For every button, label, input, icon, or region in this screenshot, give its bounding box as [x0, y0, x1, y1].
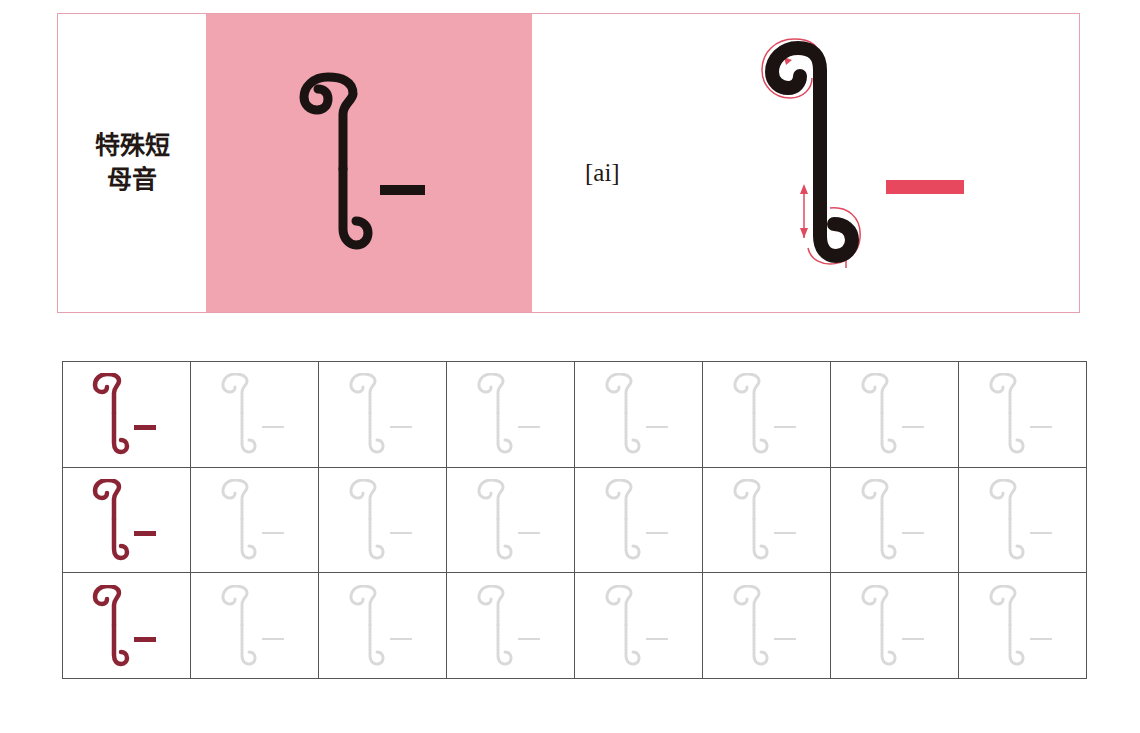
trace-cell[interactable] [447, 467, 575, 573]
sara-ai-trace-icon [348, 585, 418, 667]
sara-ai-trace-icon [732, 585, 802, 667]
sara-ai-trace-icon [732, 373, 802, 455]
trace-cell[interactable] [703, 467, 831, 573]
label-line-2: 母音 [107, 163, 157, 197]
trace-cell[interactable] [831, 467, 959, 573]
vowel-card: 特殊短 母音 [ai] [57, 13, 1080, 313]
sara-ai-trace-icon [988, 373, 1058, 455]
sara-ai-trace-icon [604, 585, 674, 667]
trace-cell[interactable] [575, 362, 703, 468]
sara-ai-trace-icon [988, 585, 1058, 667]
model-cell [63, 467, 191, 573]
trace-cell[interactable] [319, 362, 447, 468]
letter-display-cell [206, 14, 532, 312]
sara-ai-trace-icon [860, 373, 930, 455]
sara-ai-model-icon [92, 585, 162, 667]
sara-ai-trace-icon [988, 479, 1058, 561]
model-cell [63, 573, 191, 679]
sara-ai-trace-icon [476, 373, 546, 455]
trace-cell[interactable] [703, 362, 831, 468]
trace-cell[interactable] [319, 573, 447, 679]
sara-ai-trace-icon [732, 479, 802, 561]
practice-row [63, 362, 1087, 468]
sara-ai-model-icon [92, 373, 162, 455]
sara-ai-trace-icon [476, 585, 546, 667]
label-line-1: 特殊短 [95, 129, 170, 163]
sara-ai-trace-icon [604, 373, 674, 455]
vowel-category-label: 特殊短 母音 [58, 14, 206, 312]
sara-ai-trace-icon [860, 479, 930, 561]
practice-row [63, 573, 1087, 679]
practice-grid [62, 361, 1087, 679]
practice-row [63, 467, 1087, 573]
sara-ai-trace-icon [476, 479, 546, 561]
sara-ai-trace-icon [220, 479, 290, 561]
stroke-order-diagram-icon [758, 38, 998, 278]
trace-cell[interactable] [447, 362, 575, 468]
sara-ai-glyph-icon [296, 69, 436, 259]
trace-cell[interactable] [575, 573, 703, 679]
sara-ai-trace-icon [220, 373, 290, 455]
trace-cell[interactable] [191, 467, 319, 573]
sara-ai-trace-icon [348, 479, 418, 561]
sara-ai-trace-icon [604, 479, 674, 561]
trace-cell[interactable] [959, 362, 1087, 468]
trace-cell[interactable] [191, 573, 319, 679]
sara-ai-trace-icon [348, 373, 418, 455]
sara-ai-trace-icon [860, 585, 930, 667]
trace-cell[interactable] [319, 467, 447, 573]
model-cell [63, 362, 191, 468]
trace-cell[interactable] [831, 573, 959, 679]
vowel-length-mark-icon [886, 179, 966, 195]
ipa-transcription: [ai] [585, 159, 620, 187]
trace-cell[interactable] [831, 362, 959, 468]
trace-cell[interactable] [703, 573, 831, 679]
trace-cell[interactable] [191, 362, 319, 468]
trace-cell[interactable] [959, 467, 1087, 573]
trace-cell[interactable] [447, 573, 575, 679]
trace-cell[interactable] [575, 467, 703, 573]
trace-cell[interactable] [959, 573, 1087, 679]
sara-ai-trace-icon [220, 585, 290, 667]
sara-ai-model-icon [92, 479, 162, 561]
